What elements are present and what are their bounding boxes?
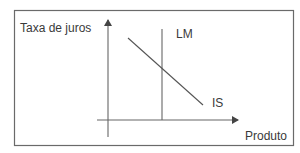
is-lm-diagram: Taxa de juros LM IS Produto <box>0 0 300 153</box>
y-axis-label: Taxa de juros <box>20 21 91 35</box>
is-curve <box>128 38 203 105</box>
lm-label: LM <box>176 27 193 41</box>
is-label: IS <box>212 96 223 110</box>
x-axis-label: Produto <box>245 129 287 143</box>
